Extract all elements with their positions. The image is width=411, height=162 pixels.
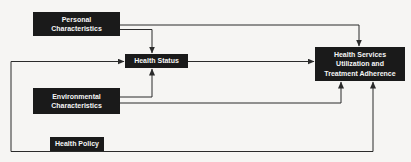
node-label-line: Characteristics xyxy=(51,101,102,110)
diagram-canvas: Personal Characteristics Health Status E… xyxy=(0,0,411,162)
arrow-environmental-to-health-services xyxy=(120,82,341,103)
node-label-line: Characteristics xyxy=(51,24,102,33)
node-label-line: Utilization and xyxy=(336,59,384,68)
node-environmental-characteristics: Environmental Characteristics xyxy=(33,88,120,114)
node-label-line: Health Policy xyxy=(55,139,99,148)
node-health-services: Health Services Utilization and Treatmen… xyxy=(315,47,405,81)
node-label-line: Treatment Adherence xyxy=(324,69,395,78)
node-health-status: Health Status xyxy=(125,54,188,68)
node-label-line: Personal xyxy=(62,15,92,24)
node-label-line: Health Services xyxy=(334,50,386,59)
node-label-line: Environmental xyxy=(52,92,101,101)
node-personal-characteristics: Personal Characteristics xyxy=(33,12,120,36)
arrow-personal-to-health-services xyxy=(120,25,359,46)
arrow-personal-to-health-status xyxy=(120,30,152,54)
arrow-environmental-to-health-status xyxy=(120,69,152,97)
node-label-line: Health Status xyxy=(134,56,179,65)
node-health-policy: Health Policy xyxy=(50,137,104,151)
